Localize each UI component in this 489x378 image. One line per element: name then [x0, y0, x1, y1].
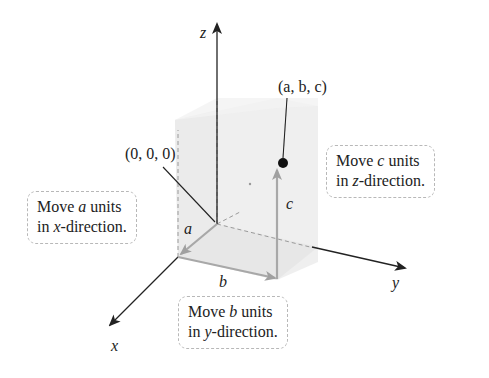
origin-label: (0, 0, 0)	[125, 146, 176, 162]
segment-c-label: c	[286, 196, 293, 212]
callout-z-direction: Move c units in z-direction.	[326, 145, 435, 198]
y-axis	[312, 247, 405, 268]
z-axis-label: z	[200, 25, 206, 41]
segment-a-label: a	[184, 221, 192, 237]
center-dot	[249, 183, 251, 185]
callout-x-direction: Move a units in x-direction.	[27, 191, 137, 244]
callout-y-direction: Move b units in y-direction.	[178, 296, 288, 349]
x-axis	[110, 257, 178, 325]
segment-b-label: b	[219, 274, 227, 290]
point-abc	[278, 158, 288, 168]
shaded-box	[175, 98, 318, 280]
y-axis-label: y	[392, 275, 399, 291]
point-abc-label: (a, b, c)	[278, 79, 327, 95]
x-axis-label: x	[111, 338, 118, 354]
